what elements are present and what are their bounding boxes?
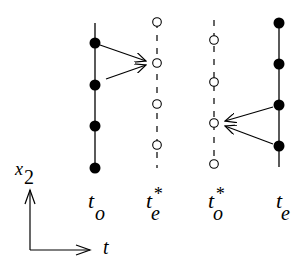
column-t-o	[90, 23, 101, 174]
filled-node	[274, 59, 285, 70]
vertical-axis-label: x	[14, 159, 23, 179]
hollow-node	[210, 36, 219, 45]
column-labels: t o t * e t * o t e	[88, 184, 290, 224]
filled-node	[274, 18, 285, 29]
hollow-node	[153, 141, 162, 150]
column-t-e-star	[153, 18, 162, 168]
filled-node	[90, 163, 101, 174]
hollow-node	[210, 119, 219, 128]
label-t-e-star-sub: e	[151, 202, 160, 224]
filled-node	[274, 141, 285, 152]
label-t-e-sub: e	[281, 202, 290, 224]
arrow-icon	[225, 126, 273, 144]
staggered-time-diagram: t o t * e t * o t e x 2 t	[0, 0, 308, 269]
hollow-node	[153, 100, 162, 109]
column-t-e	[274, 18, 285, 168]
filled-node	[90, 80, 101, 91]
arrow-icon	[100, 45, 146, 61]
label-t-o-star-sub: o	[213, 202, 223, 224]
label-t-o-sub: o	[95, 202, 105, 224]
label-t-e-star-sup: *	[153, 184, 162, 204]
filled-node	[90, 38, 101, 49]
arrow-icon	[106, 65, 146, 79]
horizontal-axis-label: t	[103, 236, 109, 258]
label-t-o-star-sup: *	[215, 184, 224, 204]
arrows-to-t-o-star	[225, 107, 273, 144]
hollow-node	[210, 78, 219, 87]
arrows-to-t-e-star	[100, 45, 146, 79]
arrow-icon	[225, 107, 273, 121]
hollow-node	[153, 18, 162, 27]
hollow-node	[210, 160, 219, 169]
hollow-node	[153, 59, 162, 68]
label-t-o-main: t	[88, 188, 95, 213]
vertical-axis-subscript: 2	[24, 166, 34, 188]
column-t-o-star	[210, 20, 219, 168]
filled-node	[90, 121, 101, 132]
filled-node	[274, 100, 285, 111]
